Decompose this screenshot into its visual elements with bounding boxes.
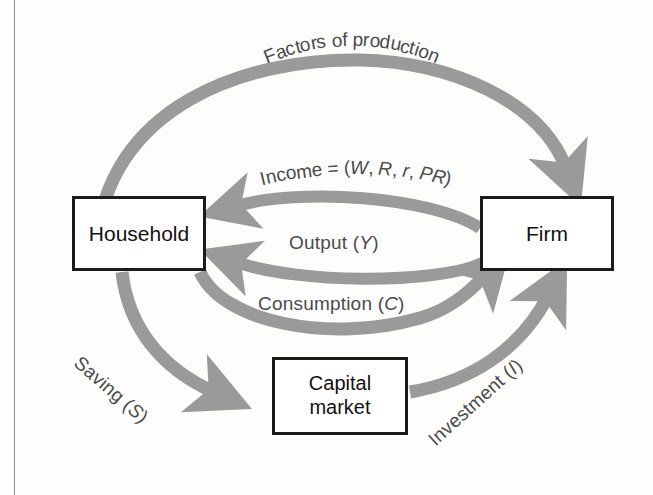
flow-label-consumption-suffix: ): [398, 293, 405, 314]
node-capital-market-label: Capital market: [309, 372, 371, 419]
arrow-saving: [122, 272, 214, 392]
flow-label-output: Output (Y): [289, 232, 379, 254]
flow-label-consumption: Consumption (C): [258, 293, 405, 315]
node-household[interactable]: Household: [72, 196, 206, 271]
flow-label-output-prefix: Output (: [289, 232, 359, 253]
circular-flow-diagram: Household Firm Capital market Factors of…: [0, 0, 653, 495]
node-firm-label: Firm: [526, 222, 568, 246]
flow-label-output-var: Y: [359, 232, 372, 253]
node-capital-market[interactable]: Capital market: [272, 357, 408, 435]
arrow-income: [236, 197, 480, 228]
flow-label-consumption-prefix: Consumption (: [258, 293, 384, 314]
flow-label-income-glyph: W: [350, 157, 368, 179]
node-capital-market-label-line2: market: [309, 396, 371, 420]
node-capital-market-label-line1: Capital: [309, 372, 371, 396]
flow-label-output-suffix: ): [372, 232, 379, 253]
flow-label-factors-of-production-glyph: o: [331, 29, 343, 52]
node-firm[interactable]: Firm: [480, 196, 614, 271]
arrow-output: [236, 262, 482, 279]
flow-label-consumption-var: C: [384, 293, 398, 314]
node-household-label: Household: [89, 222, 189, 246]
